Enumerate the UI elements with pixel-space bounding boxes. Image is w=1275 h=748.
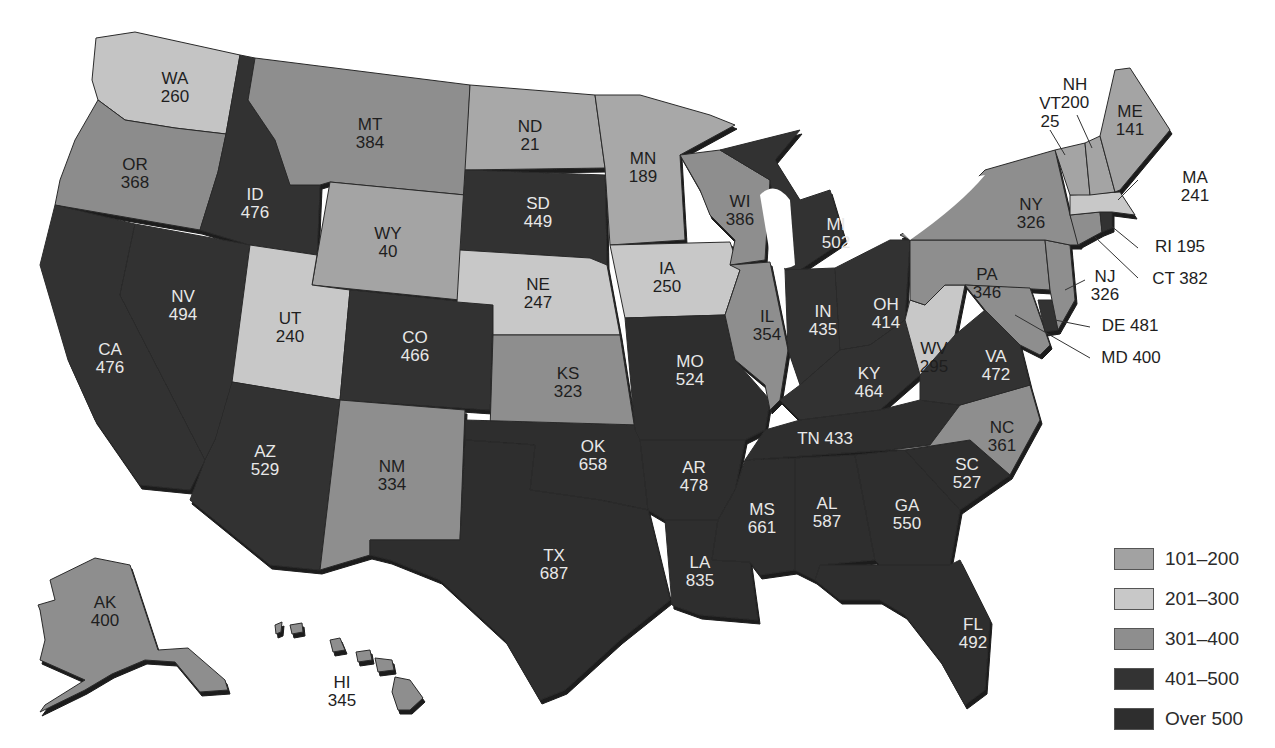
state-HI-oahu[interactable] <box>290 623 303 634</box>
label-MO: MO524 <box>676 352 704 389</box>
us-choropleth-map: WA260 OR368 CA476 ID476 NV494 MT384 WY40… <box>0 0 1275 748</box>
non-contiguous-states <box>38 558 423 712</box>
legend-label: 201–300 <box>1165 588 1239 610</box>
label-WA: WA260 <box>161 69 189 106</box>
legend: 101–200 201–300 301–400 401–500 Over 500 <box>1114 543 1243 743</box>
state-HI-kauai[interactable] <box>275 622 282 634</box>
legend-swatch <box>1114 668 1154 690</box>
label-WI: WI386 <box>726 192 754 229</box>
label-OR: OR368 <box>121 155 149 192</box>
label-GA: GA550 <box>893 496 921 533</box>
label-WV: WV295 <box>920 339 949 376</box>
label-MD: MD 400 <box>1101 348 1161 367</box>
label-CA: CA476 <box>96 340 124 377</box>
legend-swatch <box>1114 708 1154 730</box>
label-RI: RI 195 <box>1155 237 1205 256</box>
state-HI-molokai[interactable] <box>330 638 345 652</box>
label-SD: SD449 <box>524 194 552 231</box>
label-ND: ND21 <box>518 117 543 154</box>
label-MA: MA241 <box>1181 168 1209 205</box>
state-HI-lanai[interactable] <box>375 658 394 672</box>
label-HI: HI345 <box>328 673 356 710</box>
label-KS: KS323 <box>554 364 582 401</box>
label-VA: VA472 <box>982 347 1010 384</box>
label-OK: OK658 <box>579 437 607 474</box>
label-MN: MN189 <box>629 149 657 186</box>
label-MT: MT384 <box>356 115 384 152</box>
legend-item-401-500: 401–500 <box>1114 663 1243 695</box>
legend-label: Over 500 <box>1165 708 1243 730</box>
label-AK: AK400 <box>91 593 119 630</box>
label-OH: OH414 <box>872 295 900 332</box>
label-KY: KY464 <box>855 364 883 401</box>
legend-label: 401–500 <box>1165 668 1239 690</box>
label-MS: MS661 <box>748 500 776 537</box>
legend-item-301-400: 301–400 <box>1114 623 1243 655</box>
label-UT: UT240 <box>276 309 304 346</box>
label-MI: MI502 <box>822 215 850 252</box>
label-ME: ME141 <box>1116 102 1144 139</box>
label-NY: NY326 <box>1017 195 1045 232</box>
legend-item-101-200: 101–200 <box>1114 543 1243 575</box>
state-RI[interactable] <box>1100 212 1112 232</box>
label-CO: CO466 <box>401 328 429 365</box>
legend-item-over-500: Over 500 <box>1114 703 1243 735</box>
legend-label: 301–400 <box>1165 628 1239 650</box>
label-VT: VT25 <box>1039 94 1061 131</box>
label-NJ: NJ326 <box>1091 267 1119 304</box>
state-HI-big-island[interactable] <box>392 677 423 710</box>
label-AL: AL587 <box>813 494 841 531</box>
label-LA: LA835 <box>686 553 714 590</box>
legend-swatch <box>1114 588 1154 610</box>
label-TN: TN 433 <box>797 429 853 448</box>
label-AZ: AZ529 <box>251 442 279 479</box>
label-AR: AR478 <box>680 458 708 495</box>
state-NY[interactable] <box>900 150 1080 245</box>
state-HI-maui[interactable] <box>356 650 372 662</box>
label-CT: CT 382 <box>1152 269 1207 288</box>
label-NC: NC361 <box>988 418 1016 455</box>
legend-swatch <box>1114 548 1154 570</box>
label-PA: PA346 <box>973 265 1001 302</box>
label-NE: NE247 <box>524 275 552 312</box>
legend-label: 101–200 <box>1165 548 1239 570</box>
legend-swatch <box>1114 628 1154 650</box>
label-NV: NV494 <box>169 287 197 324</box>
label-NH: NH200 <box>1061 75 1089 112</box>
state-AK[interactable] <box>38 558 228 712</box>
legend-item-201-300: 201–300 <box>1114 583 1243 615</box>
label-SC: SC527 <box>953 455 981 492</box>
label-NM: NM334 <box>378 457 406 494</box>
label-TX: TX687 <box>540 546 568 583</box>
label-DE: DE 481 <box>1102 316 1159 335</box>
